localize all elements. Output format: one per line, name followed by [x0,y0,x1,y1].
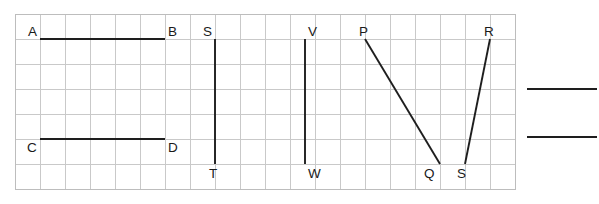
point-label-s1: S [203,24,212,39]
geometry-diagram: ABCDSTVWPQSR [0,0,599,204]
figure-canvas: ABCDSTVWPQSR [0,0,599,204]
point-label-s2: S [457,166,466,181]
point-label-b: B [168,24,177,39]
segment-sr [465,39,490,164]
point-label-t: T [209,166,217,181]
point-label-q: Q [424,166,435,181]
point-label-v: V [308,24,317,39]
point-label-r: R [484,24,494,39]
answer-rule-layer [527,89,597,137]
segment-pq [365,39,440,164]
point-label-d: D [168,140,178,155]
point-label-layer: ABCDSTVWPQSR [27,24,494,181]
point-label-p: P [359,24,368,39]
point-label-c: C [27,140,37,155]
point-label-w: W [308,166,321,181]
point-label-a: A [28,24,37,39]
